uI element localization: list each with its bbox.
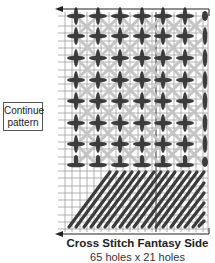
diagram-dimensions: 65 holes x 21 holes [0, 251, 215, 263]
slanted-stitches [69, 172, 204, 227]
note-line-1: Continue [4, 105, 42, 117]
diagram-title: Cross Stitch Fantasy Side [0, 237, 215, 249]
note-line-2: pattern [4, 117, 42, 129]
continue-pattern-note: Continue pattern [3, 102, 43, 131]
